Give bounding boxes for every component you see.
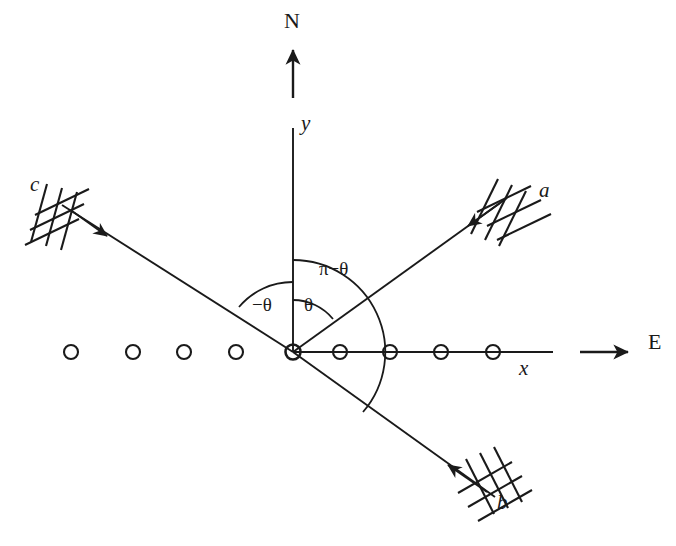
north-label: N <box>284 10 300 32</box>
y-axis-label: y <box>301 113 310 134</box>
ray-c <box>25 184 293 352</box>
ray-c-line <box>62 205 293 352</box>
angle-arc-pi-minus-theta <box>293 260 385 412</box>
ray-c-arrowhead <box>72 211 107 236</box>
scatterer-circles-left <box>64 345 243 359</box>
figure-diagram: N E y x a b c θ −θ π−θ <box>0 0 676 546</box>
ray-a-label: a <box>539 180 550 201</box>
scatterer-circle <box>229 345 243 359</box>
angle-minus-theta-label: −θ <box>252 295 272 314</box>
ray-c-label: c <box>30 174 39 195</box>
x-axis-label: x <box>519 358 528 379</box>
ray-b-line <box>293 352 495 497</box>
scatterer-circle <box>126 345 140 359</box>
scatterer-circle <box>64 345 78 359</box>
east-label: E <box>648 331 661 353</box>
angle-arcs <box>239 260 385 412</box>
angle-theta-label: θ <box>304 295 313 314</box>
ray-b-label: b <box>497 492 508 513</box>
scatterer-circle <box>177 345 191 359</box>
ray-b-hatch-icon <box>458 447 532 521</box>
angle-pi-minus-theta-label: π−θ <box>319 259 348 278</box>
